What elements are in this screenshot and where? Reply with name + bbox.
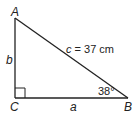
side-c-value: 37 cm [84, 43, 114, 55]
side-b-label: b [6, 54, 13, 66]
angle-b-label: 38° [98, 86, 115, 97]
vertex-a-label: A [11, 6, 19, 18]
side-c-variable: c [66, 43, 72, 55]
side-c-equals: = [75, 43, 81, 55]
vertex-b-label: B [124, 101, 132, 113]
right-angle-marker [15, 88, 25, 98]
vertex-c-label: C [10, 101, 19, 113]
triangle-diagram: A C B b a c = 37 cm 38° [0, 0, 139, 117]
side-c-label: c = 37 cm [66, 44, 114, 55]
side-a-label: a [70, 101, 77, 113]
